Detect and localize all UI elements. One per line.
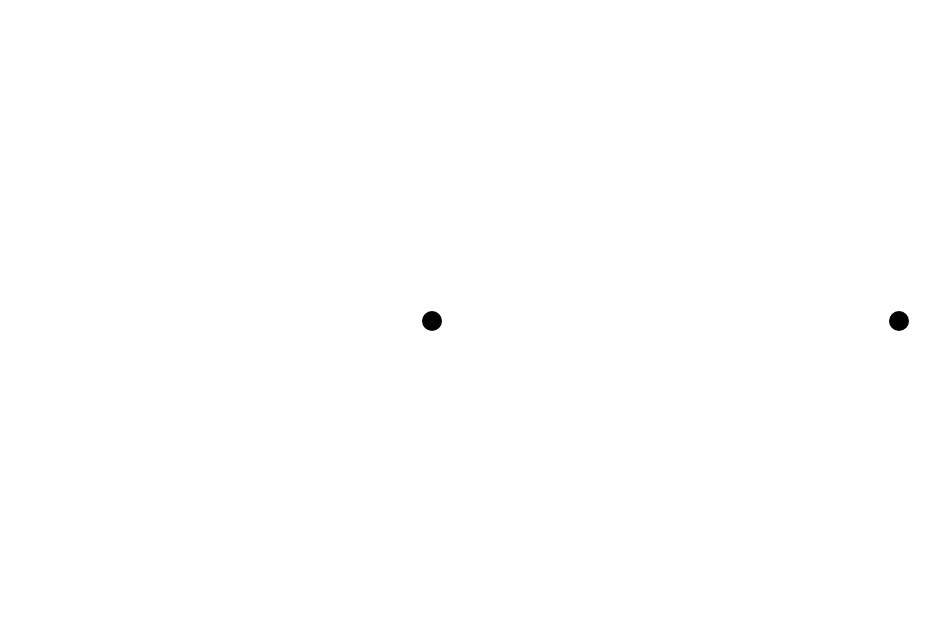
blank-canvas — [0, 0, 939, 636]
black-dot-right — [889, 311, 909, 331]
black-dot-left — [422, 311, 442, 331]
